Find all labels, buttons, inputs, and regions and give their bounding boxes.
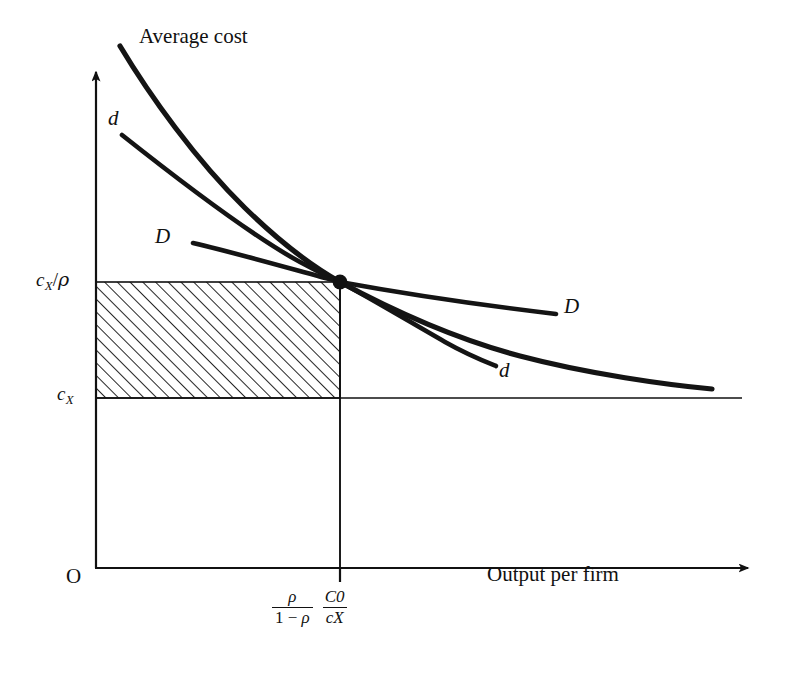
x-tick-frac2-den-subscript: X: [333, 608, 343, 627]
x-tick-frac2-num-base: C: [325, 587, 336, 606]
x-tick-frac1-numerator: ρ: [285, 588, 299, 607]
curve-label-D-right: D: [564, 296, 579, 317]
x-tick-fraction-rho: ρ 1 − ρ: [272, 588, 313, 628]
y-axis-tick-label-cx: cX: [57, 384, 74, 407]
x-tick-frac2-num-subscript: 0: [336, 587, 345, 606]
y-tick-rho: ρ: [58, 268, 69, 290]
y-axis-tick-label-cx-over-rho: cX/ρ: [36, 270, 69, 293]
x-axis-tick-label: ρ 1 − ρ C0 cX: [272, 588, 348, 628]
x-tick-frac2-denominator: cX: [323, 607, 347, 627]
chart-canvas: [0, 0, 799, 679]
curve-label-D-left: D: [155, 226, 170, 247]
x-tick-frac2-numerator: C0: [322, 588, 348, 607]
average-cost-demand-figure: Average cost Output per firm O d D D d c…: [0, 0, 799, 679]
x-axis-title: Output per firm: [487, 564, 619, 585]
y-tick2-cx-subscript: X: [66, 392, 74, 407]
curve-label-average-cost: Average cost: [139, 26, 248, 47]
curve-demand-D-left: [193, 243, 340, 282]
x-tick-frac1-denominator: 1 − ρ: [272, 607, 313, 627]
curve-label-d-left: d: [108, 108, 119, 129]
y-tick-cx-base: c: [36, 269, 44, 290]
equilibrium-point-marker: [333, 275, 348, 290]
x-tick-fraction-c0-cx: C0 cX: [322, 588, 348, 628]
shaded-rectangle: [96, 282, 340, 398]
origin-label: O: [66, 566, 81, 587]
x-tick-frac1-den-rho: ρ: [302, 608, 310, 627]
x-tick-frac1-den-pre: 1 −: [275, 608, 302, 627]
curve-label-d-right: d: [499, 360, 510, 381]
y-tick2-cx-base: c: [57, 383, 65, 404]
y-tick-cx-subscript: X: [45, 278, 53, 293]
